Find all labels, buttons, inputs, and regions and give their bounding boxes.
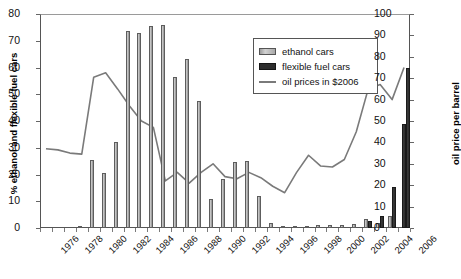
bar-ethanol bbox=[293, 226, 297, 228]
legend-item-oil-prices: oil prices in $2006 bbox=[259, 74, 372, 88]
x-axis-tick bbox=[338, 228, 339, 232]
bar-ethanol bbox=[269, 223, 273, 228]
x-axis-tick bbox=[231, 228, 232, 232]
x-axis-tick bbox=[147, 228, 148, 232]
x-axis-tick bbox=[171, 228, 172, 232]
y-axis-right-tick bbox=[410, 14, 414, 15]
legend-swatch-flex-icon bbox=[259, 63, 276, 70]
y-axis-right-tick bbox=[410, 100, 414, 101]
x-axis-tick bbox=[267, 228, 268, 232]
y-axis-left-tick-label: 0 bbox=[0, 221, 20, 233]
y-axis-right-tick bbox=[410, 121, 414, 122]
x-axis-tick-label: 1982 bbox=[130, 233, 153, 256]
legend-label-flex: flexible fuel cars bbox=[282, 61, 350, 72]
bar-ethanol bbox=[149, 26, 153, 228]
bar-ethanol bbox=[185, 59, 189, 228]
x-axis-tick bbox=[100, 228, 101, 232]
chart-legend: ethanol cars flexible fuel cars oil pric… bbox=[253, 38, 378, 94]
x-axis-tick bbox=[195, 228, 196, 232]
x-axis-tick bbox=[40, 228, 41, 232]
bar-ethanol bbox=[257, 196, 261, 228]
legend-swatch-ethanol-icon bbox=[259, 48, 276, 55]
bar-ethanol bbox=[78, 226, 82, 228]
y-axis-right-tick-label: 80 bbox=[374, 50, 402, 62]
legend-item-ethanol-cars: ethanol cars bbox=[259, 44, 372, 58]
x-axis-tick bbox=[135, 228, 136, 232]
y-axis-right-tick bbox=[410, 78, 414, 79]
y-axis-left-tick-label: 80 bbox=[0, 7, 20, 19]
y-axis-right-tick-label: 100 bbox=[374, 7, 402, 19]
y-axis-right-tick-label: 20 bbox=[374, 178, 402, 190]
plot-area: ethanol cars flexible fuel cars oil pric… bbox=[40, 14, 410, 228]
y-axis-right-tick-label: 40 bbox=[374, 135, 402, 147]
bar-ethanol bbox=[114, 142, 118, 228]
legend-item-flexible-fuel-cars: flexible fuel cars bbox=[259, 59, 372, 73]
y-axis-left-tick bbox=[36, 121, 40, 122]
bar-ethanol bbox=[102, 173, 106, 228]
y-axis-left-tick bbox=[36, 148, 40, 149]
x-axis-tick bbox=[207, 228, 208, 232]
bar-ethanol bbox=[305, 226, 309, 228]
x-axis-tick-label: 1980 bbox=[106, 233, 129, 256]
y-axis-left-tick bbox=[36, 175, 40, 176]
x-axis-tick-label: 1996 bbox=[297, 233, 320, 256]
x-axis-tick-label: 2006 bbox=[416, 233, 439, 256]
y-axis-left-tick-label: 10 bbox=[0, 194, 20, 206]
x-axis-tick bbox=[112, 228, 113, 232]
x-axis-tick bbox=[219, 228, 220, 232]
x-axis-tick-label: 2002 bbox=[368, 233, 391, 256]
x-axis-tick-label: 1988 bbox=[201, 233, 224, 256]
x-axis-tick bbox=[279, 228, 280, 232]
bar-ethanol bbox=[90, 160, 94, 228]
x-axis-tick bbox=[124, 228, 125, 232]
y-axis-right-tick-label: 60 bbox=[374, 93, 402, 105]
bar-ethanol bbox=[137, 33, 141, 228]
bar-ethanol bbox=[126, 31, 130, 228]
y-axis-right-tick bbox=[410, 164, 414, 165]
x-axis-tick bbox=[303, 228, 304, 232]
bar-flexible-fuel bbox=[406, 68, 410, 229]
bar-flexible-fuel bbox=[368, 221, 372, 228]
bar-ethanol bbox=[352, 224, 356, 228]
bar-ethanol bbox=[328, 225, 332, 228]
legend-label-oil: oil prices in $2006 bbox=[282, 76, 359, 87]
y-axis-right-tick-label: 10 bbox=[374, 200, 402, 212]
y-axis-left-tick-label: 70 bbox=[0, 34, 20, 46]
x-axis-tick bbox=[76, 228, 77, 232]
y-axis-left-tick-label: 60 bbox=[0, 61, 20, 73]
y-axis-right-tick-label: 70 bbox=[374, 71, 402, 83]
x-axis-tick bbox=[326, 228, 327, 232]
y-axis-left-tick-label: 30 bbox=[0, 141, 20, 153]
bar-ethanol bbox=[340, 225, 344, 228]
x-axis-tick-label: 2000 bbox=[345, 233, 368, 256]
x-axis-tick-label: 2004 bbox=[392, 233, 415, 256]
y-axis-right-tick bbox=[410, 142, 414, 143]
x-axis-tick-label: 1990 bbox=[225, 233, 248, 256]
bar-ethanol bbox=[233, 162, 237, 228]
y-axis-left-tick-label: 40 bbox=[0, 114, 20, 126]
legend-label-ethanol: ethanol cars bbox=[282, 46, 334, 57]
y-axis-right-title: oil price per barrel bbox=[450, 14, 461, 234]
y-axis-left-tick bbox=[36, 201, 40, 202]
y-axis-left-tick bbox=[36, 94, 40, 95]
bar-ethanol bbox=[281, 226, 285, 228]
x-axis-tick bbox=[183, 228, 184, 232]
x-axis-tick-label: 1984 bbox=[154, 233, 177, 256]
x-axis-tick bbox=[255, 228, 256, 232]
y-axis-left-tick-label: 20 bbox=[0, 168, 20, 180]
y-axis-left-tick-label: 50 bbox=[0, 87, 20, 99]
x-axis-tick bbox=[362, 228, 363, 232]
x-axis-tick bbox=[350, 228, 351, 232]
y-axis-left-tick bbox=[36, 68, 40, 69]
bar-ethanol bbox=[173, 77, 177, 228]
x-axis-tick bbox=[410, 228, 411, 232]
y-axis-right-tick bbox=[410, 57, 414, 58]
bar-ethanol bbox=[245, 161, 249, 228]
x-axis-tick-label: 1992 bbox=[249, 233, 272, 256]
x-axis-tick-label: 1994 bbox=[273, 233, 296, 256]
y-axis-right-tick-label: 30 bbox=[374, 157, 402, 169]
y-axis-right-tick-label: 90 bbox=[374, 28, 402, 40]
legend-swatch-line-icon bbox=[259, 81, 276, 83]
x-axis-tick bbox=[52, 228, 53, 232]
